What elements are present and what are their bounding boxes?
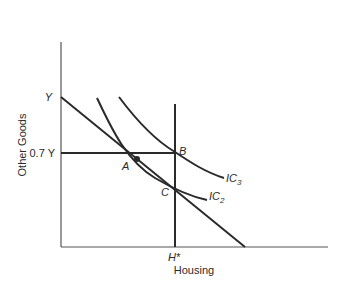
budget-line — [61, 97, 245, 247]
y-tick-y: Y — [45, 91, 53, 103]
x-axis-label: Housing — [174, 264, 214, 276]
indifference-curve-diagram: Other Goods Y 0.7 Y H* Housing A B C IC3… — [0, 0, 346, 287]
y-axis-label: Other Goods — [16, 113, 28, 176]
indifference-curve-ic3 — [119, 97, 224, 178]
point-a-dot — [134, 156, 140, 162]
y-tick-0-7y: 0.7 Y — [30, 147, 56, 159]
x-tick-h-star: H* — [168, 251, 181, 263]
ic2-label: IC2 — [209, 190, 225, 205]
ic3-label: IC3 — [226, 172, 242, 187]
point-c-label: C — [161, 186, 169, 198]
point-a-label: A — [121, 160, 129, 172]
indifference-curve-ic2 — [97, 98, 207, 200]
point-b-label: B — [179, 145, 186, 157]
